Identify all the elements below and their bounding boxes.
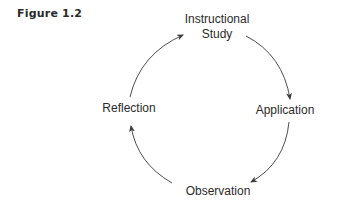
arrow-application-to-observation: [251, 122, 289, 182]
arrow-study-to-application: [246, 36, 290, 99]
cycle-arrows: [0, 0, 349, 207]
arrow-observation-to-reflection: [131, 126, 172, 183]
arrow-reflection-to-study: [130, 35, 183, 97]
